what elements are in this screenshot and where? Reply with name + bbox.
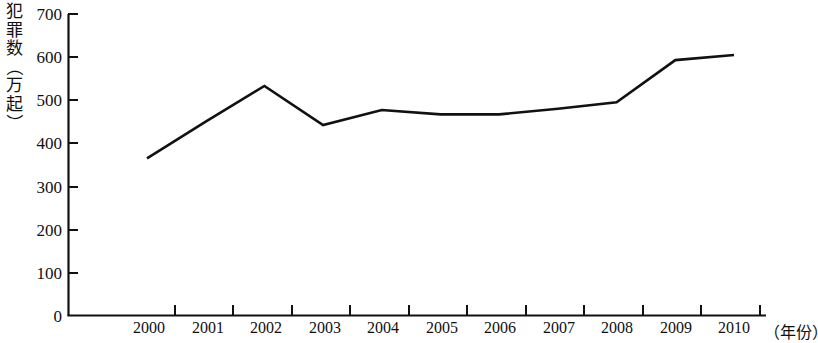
- data-series-line: [147, 55, 734, 158]
- axes-group: [68, 14, 767, 316]
- x-tick-marks: [175, 305, 760, 315]
